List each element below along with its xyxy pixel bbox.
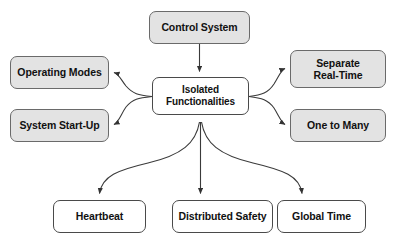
node-heartbeat[interactable]: Heartbeat [53,200,146,233]
node-control-system[interactable]: Control System [149,11,250,44]
node-global-time-label: Global Time [289,210,354,222]
node-global-time[interactable]: Global Time [277,200,366,233]
node-one-to-many-label: One to Many [304,119,372,131]
edge-isolated-to-operating-modes [114,73,152,97]
node-separate-real-time[interactable]: Separate Real-Time [290,50,386,88]
edge-isolated-to-heartbeat [100,122,200,194]
node-distributed-safety[interactable]: Distributed Safety [172,200,273,233]
node-operating-modes[interactable]: Operating Modes [10,56,109,89]
node-operating-modes-label: Operating Modes [14,66,104,78]
node-isolated-functionalities[interactable]: Isolated Functionalities [152,77,249,115]
node-isolated-functionalities-label: Isolated Functionalities [163,84,238,108]
node-one-to-many[interactable]: One to Many [290,109,386,142]
node-system-start-up[interactable]: System Start-Up [10,109,109,142]
diagram-canvas: Control System Isolated Functionalities … [0,0,395,242]
edge-isolated-to-global-time [202,122,303,194]
node-system-start-up-label: System Start-Up [16,119,102,131]
node-control-system-label: Control System [158,21,240,33]
node-separate-real-time-label: Separate Real-Time [310,57,365,82]
node-heartbeat-label: Heartbeat [73,210,127,222]
edge-isolated-to-one-to-many [249,97,285,125]
edge-isolated-to-system-start-up [114,97,152,125]
node-distributed-safety-label: Distributed Safety [175,210,269,222]
edge-isolated-to-separate-real-time [249,69,285,97]
